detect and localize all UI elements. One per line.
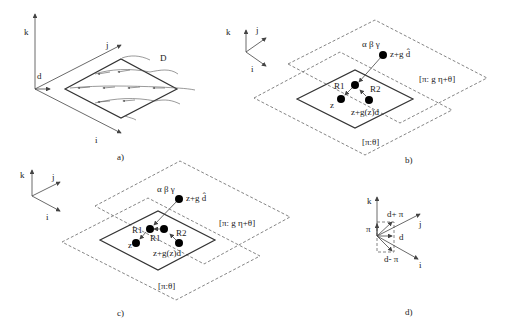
arrow-R1-to-z — [345, 88, 352, 95]
caption-a: a) — [117, 152, 124, 162]
region-D-rhombus — [65, 59, 177, 118]
d-plus-pi-arrow — [377, 222, 392, 236]
i-axis-label: i — [251, 64, 254, 74]
lower-plane-label: [π:θ] — [362, 137, 379, 147]
d-label: d — [37, 71, 42, 81]
axes-c — [32, 170, 60, 211]
i-axis-arrow — [246, 52, 266, 66]
R1b-label: R1 — [150, 233, 161, 243]
greek-label: α β γ — [362, 39, 380, 49]
k-axis-label: k — [24, 27, 29, 37]
i-axis-label: i — [95, 135, 98, 145]
upper-plane-label: [π: g η+θ] — [219, 218, 255, 228]
pi-label: π — [366, 224, 371, 234]
j-axis-arrow — [32, 182, 60, 196]
R1-point — [351, 81, 359, 89]
panel-d: k j i π d+ π d d- π d) — [366, 196, 422, 317]
j-axis-label: j — [255, 25, 259, 35]
upper-plane — [288, 20, 487, 123]
panel-c: k j i α β γ z+g d̂ [π: g η+θ] R1 R1 R2 z… — [20, 161, 290, 318]
k-axis-label: k — [226, 27, 231, 37]
axes-a — [35, 14, 121, 133]
R1b-point — [160, 225, 168, 233]
axes-b — [246, 30, 266, 66]
top-point — [379, 51, 387, 59]
R1-point — [146, 225, 154, 233]
lower-plane — [254, 52, 452, 155]
d-plus-pi-label: d+ π — [387, 209, 404, 219]
upper-plane — [95, 161, 290, 264]
j-axis-label: j — [51, 172, 55, 182]
D-label: D — [160, 53, 167, 63]
R1-label: R1 — [334, 81, 345, 91]
z-plus-point — [365, 96, 373, 104]
z-point — [337, 95, 345, 103]
R1-label: R1 — [132, 225, 143, 235]
j-axis-label: j — [105, 40, 109, 50]
k-axis-label: k — [20, 170, 25, 180]
z-plus-label: z+g(z)d — [351, 107, 380, 117]
lower-plane-label: [π:θ] — [158, 281, 175, 291]
top-point-label: z+g d̂ — [186, 192, 207, 203]
i-axis-arrow — [32, 196, 60, 211]
caption-d: d) — [405, 307, 413, 317]
R2-label: R2 — [176, 228, 187, 238]
k-axis-label: k — [367, 196, 372, 206]
i-axis-label: i — [419, 260, 422, 270]
z-plus-point — [175, 239, 183, 247]
panel-a: k j i d D a) — [24, 14, 195, 162]
arrow-top-to-R1 — [154, 200, 178, 225]
z-label: z — [128, 240, 132, 250]
z-label: z — [330, 100, 334, 110]
j-axis-label: j — [418, 219, 422, 229]
d-minus-pi-label: d- π — [384, 254, 399, 264]
i-axis-label: i — [46, 212, 49, 222]
greek-label: α β γ — [157, 184, 175, 194]
caption-b: b) — [405, 155, 413, 165]
top-point — [175, 195, 183, 203]
z-plus-label: z+g(z)d — [153, 248, 182, 258]
arrow-R2 — [360, 90, 366, 96]
panel-b: k j i α β γ z+g d̂ [π: g η+θ] R1 R2 z z+… — [226, 20, 487, 165]
caption-c: c) — [117, 308, 124, 318]
d-label: d — [399, 232, 404, 242]
j-axis-arrow — [246, 38, 266, 52]
upper-plane-label: [π: g η+θ] — [419, 74, 455, 84]
figure-canvas: k j i d D a) k j i α β γ z+g d̂ [π: g η+… — [0, 0, 505, 333]
top-point-label: z+g d̂ — [390, 48, 411, 59]
z-point — [132, 239, 140, 247]
R2-label: R2 — [370, 84, 381, 94]
